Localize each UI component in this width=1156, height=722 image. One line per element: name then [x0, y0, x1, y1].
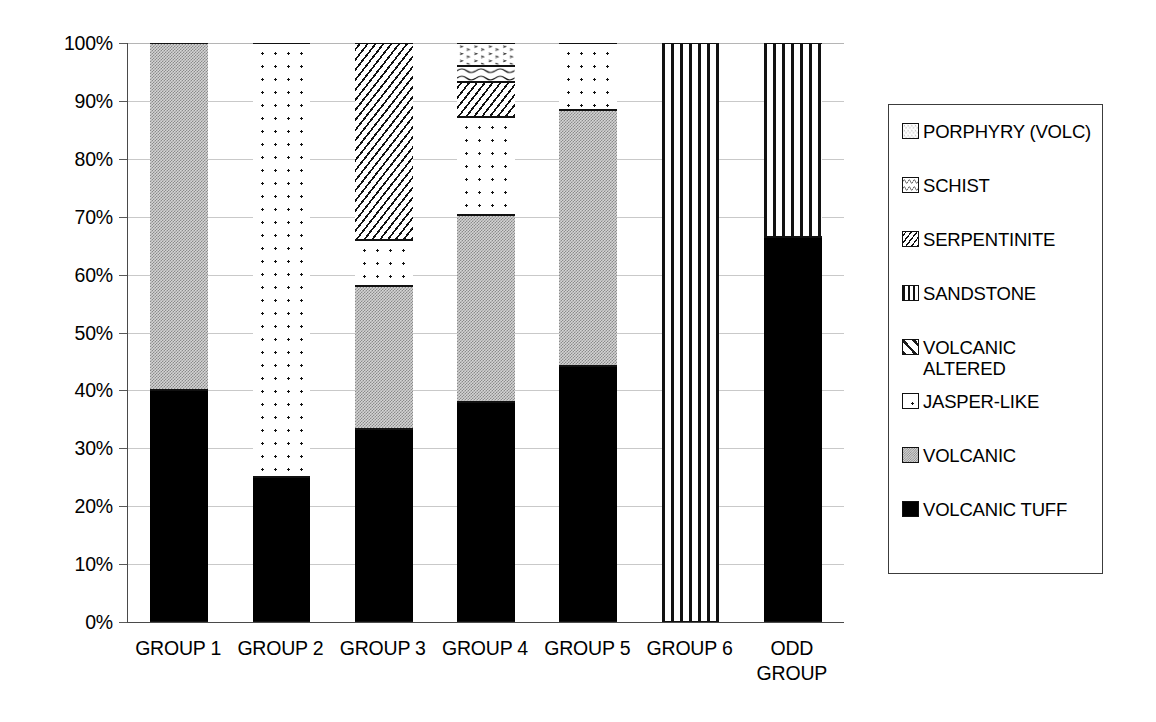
pattern-vstripe [662, 44, 720, 621]
y-tick-mark [119, 275, 127, 276]
x-axis-label: GROUP 2 [229, 636, 331, 661]
legend-swatch-porphyry [902, 123, 919, 139]
pattern-solid-black [150, 391, 208, 621]
y-tick-mark [119, 159, 127, 160]
legend-label: SERPENTINITE [923, 229, 1055, 250]
y-tick-label: 0% [85, 611, 113, 634]
bar-group-4[interactable] [458, 43, 514, 622]
pattern-dots [355, 241, 413, 285]
bar-segment-volcanic-tuff[interactable] [457, 402, 515, 622]
x-axis-label: ODD GROUP [741, 636, 843, 686]
legend-label: VOLCANIC [923, 445, 1016, 466]
legend-label: SCHIST [923, 175, 990, 196]
bar-segment-volcanic[interactable] [150, 43, 208, 390]
legend-item-jasper-like[interactable]: JASPER-LIKE [902, 391, 1039, 412]
bar-segment-jasper-like[interactable] [253, 43, 311, 477]
legend-swatch-solid-black [902, 501, 919, 517]
legend-item-volcanic-altered[interactable]: VOLCANIC ALTERED [902, 337, 1016, 379]
legend-item-sandstone[interactable]: SANDSTONE [902, 283, 1036, 304]
y-tick-label: 70% [75, 205, 113, 228]
bar-segment-sandstone[interactable] [662, 43, 720, 622]
legend-swatch-backslash-small [902, 231, 919, 247]
legend-item-porphyry-volc[interactable]: PORPHYRY (VOLC) [902, 121, 1091, 142]
bar-group-2[interactable] [253, 43, 309, 622]
pattern-grey-check [457, 216, 515, 401]
pattern-dots [903, 394, 918, 408]
legend-item-volcanic[interactable]: VOLCANIC [902, 445, 1016, 466]
plot-area [127, 43, 844, 623]
y-tick-mark [119, 622, 127, 623]
pattern-solid-black [764, 238, 822, 621]
legend-swatch-grey-check [902, 447, 919, 463]
pattern-solid-black [457, 403, 515, 621]
pattern-wave [457, 67, 515, 82]
pattern-grey-check [559, 111, 617, 365]
y-tick-mark [119, 101, 127, 102]
pattern-backslash-small [457, 83, 515, 115]
pattern-solid-black [903, 502, 918, 516]
bar-segment-volcanic-tuff[interactable] [764, 237, 822, 622]
bar-group-6[interactable] [663, 43, 719, 622]
y-tick-mark [119, 333, 127, 334]
bar-segment-sandstone[interactable] [764, 43, 822, 237]
pattern-wave [903, 178, 918, 192]
chart-legend: PORPHYRY (VOLC)SCHISTSERPENTINITESANDSTO… [888, 104, 1103, 574]
bar-segment-volcanic-tuff[interactable] [559, 366, 617, 622]
bar-segment-volcanic-tuff[interactable] [355, 429, 413, 622]
x-axis-label: GROUP 1 [127, 636, 229, 661]
bar-odd-group[interactable] [765, 43, 821, 622]
y-tick-label: 90% [75, 89, 113, 112]
pattern-solid-black [559, 367, 617, 621]
x-axis-label: GROUP 4 [434, 636, 536, 661]
y-tick-label: 30% [75, 437, 113, 460]
y-tick-label: 10% [75, 553, 113, 576]
y-tick-mark [119, 564, 127, 565]
legend-swatch-wave [902, 177, 919, 193]
y-tick-mark [119, 506, 127, 507]
legend-label: SANDSTONE [923, 283, 1036, 304]
pattern-dots [253, 44, 311, 476]
bar-segment-jasper-like[interactable] [355, 240, 413, 286]
bar-segment-jasper-like[interactable] [559, 43, 617, 110]
y-tick-label: 50% [75, 321, 113, 344]
x-axis-label: GROUP 3 [332, 636, 434, 661]
y-tick-label: 100% [64, 32, 113, 55]
plot-wrapper: 0%10%20%30%40%50%60%70%80%90%100% GROUP … [0, 0, 870, 722]
bar-segment-volcanic[interactable] [559, 110, 617, 366]
y-tick-mark [119, 43, 127, 44]
y-tick-label: 40% [75, 379, 113, 402]
pattern-solid-black [355, 430, 413, 621]
bar-group-3[interactable] [356, 43, 412, 622]
y-tick-label: 20% [75, 495, 113, 518]
legend-item-volcanic-tuff[interactable]: VOLCANIC TUFF [902, 499, 1067, 520]
y-tick-label: 60% [75, 263, 113, 286]
legend-item-serpentinite[interactable]: SERPENTINITE [902, 229, 1055, 250]
pattern-vstripe [903, 286, 918, 300]
pattern-grey-check [903, 448, 918, 462]
pattern-porphyry [903, 124, 918, 138]
bar-segment-volcanic-tuff[interactable] [150, 390, 208, 622]
bar-segment-serpentinite[interactable] [355, 43, 413, 240]
y-tick-mark [119, 390, 127, 391]
bar-segment-jasper-like[interactable] [457, 117, 515, 215]
legend-label: PORPHYRY (VOLC) [923, 121, 1091, 142]
bar-group-1[interactable] [151, 43, 207, 622]
pattern-dots [457, 118, 515, 214]
bar-group-5[interactable] [560, 43, 616, 622]
y-tick-mark [119, 217, 127, 218]
x-axis-label: GROUP 5 [536, 636, 638, 661]
pattern-backslash-small [355, 44, 413, 239]
pattern-solid-black [253, 478, 311, 621]
bar-segment-schist[interactable] [457, 66, 515, 83]
bar-segment-volcanic[interactable] [355, 286, 413, 429]
legend-item-schist[interactable]: SCHIST [902, 175, 990, 196]
pattern-grey-check [150, 44, 208, 389]
legend-label: VOLCANIC TUFF [923, 499, 1067, 520]
bar-segment-volcanic-tuff[interactable] [253, 477, 311, 622]
chart-page: 0%10%20%30%40%50%60%70%80%90%100% GROUP … [0, 0, 1156, 722]
bar-segment-volcanic[interactable] [457, 215, 515, 402]
legend-label: JASPER-LIKE [923, 391, 1039, 412]
bar-segment-porphyry-volc[interactable] [457, 43, 515, 66]
legend-swatch-dots [902, 393, 919, 409]
bar-segment-serpentinite[interactable] [457, 82, 515, 116]
